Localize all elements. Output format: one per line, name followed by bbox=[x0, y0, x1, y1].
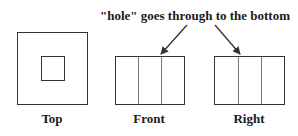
annotation-text: "hole" goes through to the bottom bbox=[100, 8, 290, 23]
arrow-to-front-view bbox=[161, 25, 187, 54]
right-view-label: Right bbox=[233, 111, 265, 126]
front-view bbox=[116, 57, 185, 105]
orthographic-views-diagram: "hole" goes through to the bottom Top Fr… bbox=[0, 0, 298, 136]
right-view-outline bbox=[215, 57, 285, 105]
top-view-hole-square bbox=[42, 57, 65, 81]
arrow-to-right-view bbox=[215, 25, 240, 54]
right-view bbox=[215, 57, 285, 105]
front-view-outline bbox=[116, 57, 185, 105]
top-view bbox=[18, 33, 88, 105]
top-view-outer-square bbox=[18, 33, 88, 105]
front-view-label: Front bbox=[133, 111, 165, 126]
top-view-label: Top bbox=[41, 111, 62, 126]
